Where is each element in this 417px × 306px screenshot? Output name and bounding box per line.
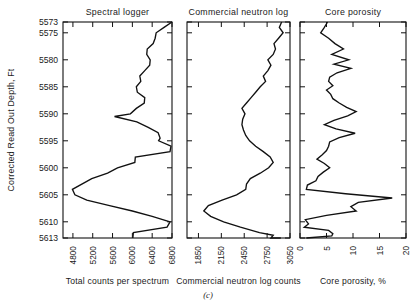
well-log-figure: Corrected Read Out Depth, Ft557355755580… [0,0,417,306]
depth-tick-label-5613: 5613 [39,233,58,243]
x-tick-label-1850: 1850 [193,246,203,265]
panel-frame [187,22,290,238]
x-axis-label-1: Total counts per spectrum [66,276,169,286]
depth-tick-label-5595: 5595 [39,136,58,146]
depth-tick-label-5605: 5605 [39,190,58,200]
x-tick-label-2750: 2750 [262,246,272,265]
x-tick-label-15: 15 [375,246,385,256]
panel-title-1: Spectral logger [86,7,150,17]
x-axis-label-2: Commercial neutron log counts [176,276,301,286]
figure-container: Corrected Read Out Depth, Ft557355755580… [0,0,417,306]
x-tick-label-6000: 6000 [127,246,137,265]
x-tick-label-6800: 6800 [167,246,177,265]
x-tick-label-5200: 5200 [88,246,98,265]
x-tick-label-3050: 3050 [285,246,295,265]
depth-tick-label-5580: 5580 [39,55,58,65]
x-tick-label-5: 5 [322,246,332,251]
log-curve-2 [204,22,283,238]
log-curve-1 [72,22,172,238]
depth-tick-label-5573: 5573 [39,17,58,27]
x-tick-label-10: 10 [348,246,358,256]
panel-2: 18502150245027503050Commercial neutron l… [176,7,301,286]
panel-title-2: Commercial neutron log [189,7,289,17]
panel-title-3: Core porosity [325,7,382,17]
log-curve-3 [304,22,392,238]
depth-tick-label-5600: 5600 [39,163,58,173]
x-tick-label-2450: 2450 [239,246,249,265]
depth-tick-label-5585: 5585 [39,82,58,92]
depth-tick-label-5575: 5575 [39,28,58,38]
x-tick-label-20: 20 [401,246,411,256]
depth-tick-label-5610: 5610 [39,217,58,227]
depth-tick-label-5590: 5590 [39,109,58,119]
panel-1: 480052005600600064006800Spectral loggerT… [63,7,177,286]
x-tick-label-2150: 2150 [216,246,226,265]
y-axis-label: Corrected Read Out Depth, Ft [6,68,16,191]
panel-3: 05101520Core porosityCore porosity, % [295,7,411,286]
panel-frame [63,22,172,238]
x-tick-label-6400: 6400 [147,246,157,265]
x-tick-label-0: 0 [295,246,305,251]
x-tick-label-5600: 5600 [108,246,118,265]
x-axis-label-3: Core porosity, % [320,276,386,286]
figure-caption: (c) [203,290,213,300]
x-tick-label-4800: 4800 [68,246,78,265]
